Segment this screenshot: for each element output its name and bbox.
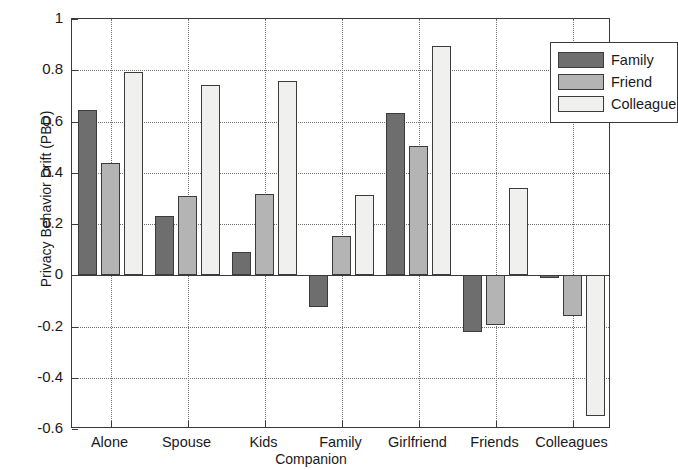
bar-family-family [309,275,328,307]
x-tick-girlfriend [419,421,420,427]
y-tick--0.2 [72,327,78,328]
gridline-y--0.4 [72,378,609,379]
bar-kids-family [232,252,251,275]
legend-entry-colleague: Colleague [558,93,670,115]
legend-swatch-colleague [558,96,604,112]
x-tick-colleagues [573,421,574,427]
y-tick-label--0.4: -0.4 [17,369,63,384]
chart-legend: Family Friend Colleague [550,42,678,123]
y-tick-label-1: 1 [17,10,63,25]
bar-girlfriend-colleague [432,46,451,275]
y-tick-label-0.4: 0.4 [17,164,63,179]
x-tick-label-girlfriend: Girlfriend [388,435,447,450]
bar-friends-friend [486,275,505,325]
gridline-y-0.2 [72,224,609,225]
x-tick-friends [496,421,497,427]
y-tick-label-0.6: 0.6 [17,113,63,128]
x-tick-label-kids: Kids [249,435,277,450]
legend-entry-friend: Friend [558,71,670,93]
legend-swatch-family [558,52,604,68]
bar-family-friend [332,236,351,275]
bar-friends-colleague [509,188,528,276]
legend-entry-family: Family [558,49,670,71]
bar-spouse-colleague [201,85,220,275]
x-tick-family [342,421,343,427]
bar-spouse-friend [178,196,197,275]
gridline-x-family [342,19,343,427]
bar-colleagues-friend [563,275,582,315]
x-tick-label-friends: Friends [470,435,518,450]
bar-girlfriend-friend [409,146,428,275]
y-tick--0.4 [72,378,78,379]
bar-spouse-family [155,216,174,275]
gridline-y-0.8 [72,70,609,71]
y-tick-label--0.6: -0.6 [17,420,63,435]
x-tick-spouse [188,421,189,427]
x-tick-label-alone: Alone [91,435,128,450]
legend-swatch-friend [558,74,604,90]
gridline-x-friends [496,19,497,427]
x-tick-alone [111,421,112,427]
gridline-y--0.2 [72,327,609,328]
y-tick-0.8 [72,70,78,71]
bar-alone-family [78,110,97,275]
plot-area: Family Friend Colleague [71,18,610,428]
zero-baseline [72,275,609,276]
y-tick-label-0.2: 0.2 [17,215,63,230]
y-tick-label-0: 0 [17,266,63,281]
bar-alone-friend [101,163,120,275]
y-tick--0.6 [72,429,78,430]
y-tick-1 [72,19,78,20]
y-tick-label--0.2: -0.2 [17,318,63,333]
x-tick-label-spouse: Spouse [162,435,211,450]
y-axis-title: Privacy Behavior Drift (PBD) [38,69,54,329]
legend-label-friend: Friend [611,75,652,90]
bar-friends-family [463,275,482,331]
bar-girlfriend-family [386,113,405,276]
bar-colleagues-colleague [586,275,605,416]
legend-label-family: Family [611,53,654,68]
gridline-y-0.6 [72,122,609,123]
bar-kids-friend [255,194,274,275]
legend-label-colleague: Colleague [611,97,676,112]
bar-alone-colleague [124,72,143,275]
y-tick-label-0.8: 0.8 [17,61,63,76]
bar-kids-colleague [278,81,297,276]
gridline-y-0.4 [72,173,609,174]
bar-family-colleague [355,195,374,275]
x-tick-label-family: Family [319,435,362,450]
x-axis-title: Companion [0,451,622,467]
x-tick-kids [265,421,266,427]
x-tick-label-colleagues: Colleagues [535,435,608,450]
